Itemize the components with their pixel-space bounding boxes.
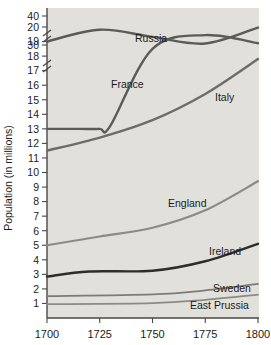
y-tick-label: 7 <box>33 210 39 222</box>
chart-container: 12345678910111213141516171819203040 1700… <box>0 0 271 345</box>
y-tick-label: 14 <box>27 108 39 120</box>
series-label-france: France <box>111 78 144 90</box>
y-tick-label: 18 <box>27 50 39 62</box>
x-axis-ticks: 17001725175017751800 <box>35 318 270 340</box>
series-label-ireland: Ireland <box>209 245 241 257</box>
y-tick-label: 4 <box>33 254 39 266</box>
y-tick-label: 15 <box>27 94 39 106</box>
y-tick-label: 5 <box>33 239 39 251</box>
y-tick-label: 2 <box>33 283 39 295</box>
series-label-sweden: Sweden <box>213 282 251 294</box>
series-label-italy: Italy <box>215 91 235 103</box>
population-line-chart: 12345678910111213141516171819203040 1700… <box>0 0 271 345</box>
y-tick-label: 9 <box>33 181 39 193</box>
series-label-east-prussia: East Prussia <box>190 299 249 311</box>
x-tick-label: 1775 <box>193 328 217 340</box>
x-tick-label: 1725 <box>88 328 112 340</box>
x-tick-label: 1700 <box>35 328 59 340</box>
series-label-russia: Russia <box>135 32 167 44</box>
y-tick-label: 16 <box>27 79 39 91</box>
series-label-england: England <box>168 197 207 209</box>
y-tick-label: 11 <box>28 152 39 164</box>
y-tick-label: 20 <box>27 21 39 33</box>
x-tick-label: 1750 <box>140 328 164 340</box>
y-tick-label: 30 <box>27 39 39 51</box>
y-tick-label: 40 <box>27 10 39 22</box>
y-tick-label: 1 <box>33 297 39 309</box>
y-tick-label: 10 <box>27 166 39 178</box>
y-tick-label: 13 <box>27 123 39 135</box>
y-axis-title: Population (in millions) <box>2 125 14 231</box>
y-tick-label: 8 <box>33 195 39 207</box>
x-tick-label: 1800 <box>246 328 270 340</box>
y-axis-ticks: 12345678910111213141516171819203040 <box>27 10 47 309</box>
y-tick-label: 6 <box>33 225 39 237</box>
y-tick-label: 17 <box>27 64 39 76</box>
y-tick-label: 3 <box>33 268 39 280</box>
y-tick-label: 12 <box>27 137 39 149</box>
